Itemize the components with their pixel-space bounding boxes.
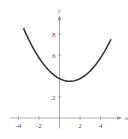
x-tick-label: 2 bbox=[78, 122, 82, 130]
x-tick-label: 4 bbox=[99, 122, 103, 130]
x-tick-label: -2 bbox=[36, 122, 42, 130]
chart: xy-4-224268 bbox=[0, 0, 128, 139]
axes: xy-4-224268 bbox=[10, 8, 128, 130]
y-axis-arrow-icon bbox=[58, 15, 62, 20]
x-tick-label: -4 bbox=[15, 122, 21, 130]
y-tick-label: 8 bbox=[52, 31, 56, 39]
data-curve bbox=[23, 28, 111, 81]
y-tick-label: 2 bbox=[52, 94, 56, 102]
y-tick-label: 6 bbox=[52, 52, 56, 60]
x-axis-label: x bbox=[124, 115, 128, 121]
y-axis-label: y bbox=[57, 8, 61, 14]
x-axis-arrow-icon bbox=[117, 116, 122, 120]
